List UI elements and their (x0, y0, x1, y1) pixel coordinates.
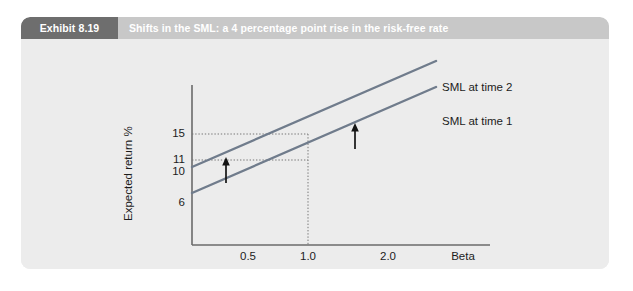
x-axis-end-label-beta: Beta (439, 250, 487, 262)
y-tick-label-10: 10 (151, 165, 185, 177)
exhibit-title: Shifts in the SML: a 4 percentage point … (129, 17, 448, 39)
exhibit-page: Exhibit 8.19 Shifts in the SML: a 4 perc… (0, 0, 633, 291)
y-tick-label-6: 6 (151, 196, 185, 208)
series-label-sml-time-1: SML at time 1 (442, 115, 513, 127)
x-tick-label-1-0: 1.0 (288, 250, 328, 262)
y-tick-label-11: 11 (151, 153, 185, 165)
series-line-sml-time-2 (192, 61, 436, 167)
series-line-sml-time-1 (192, 87, 436, 193)
exhibit-number-badge: Exhibit 8.19 (21, 17, 118, 39)
x-tick-label-0-5: 0.5 (228, 250, 268, 262)
series-label-sml-time-2: SML at time 2 (442, 81, 513, 93)
shift-arrow-high-beta (351, 123, 359, 149)
chart-plot-area: 15 11 10 6 0.5 1.0 2.0 Beta Risk measure… (21, 39, 609, 269)
y-tick-label-15: 15 (151, 127, 185, 139)
exhibit-header: Exhibit 8.19 Shifts in the SML: a 4 perc… (21, 17, 609, 39)
x-tick-label-2-0: 2.0 (368, 250, 408, 262)
y-axis-title: Expected return % (122, 81, 134, 221)
sml-chart-svg (21, 39, 609, 269)
exhibit-card: Exhibit 8.19 Shifts in the SML: a 4 perc… (21, 17, 609, 269)
